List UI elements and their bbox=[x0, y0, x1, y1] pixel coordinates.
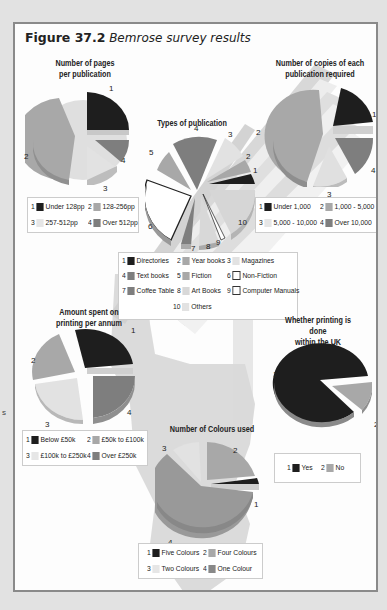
swatch-icon bbox=[183, 287, 190, 295]
copies-legend: 1Under 1,000 21,000 - 5,000 35,000 - 10,… bbox=[255, 197, 378, 233]
swatch-icon bbox=[153, 549, 160, 557]
amount-slice-label-2: 2 bbox=[31, 356, 35, 365]
swatch-icon bbox=[183, 272, 190, 280]
swatch-icon bbox=[265, 219, 272, 227]
swatch-icon bbox=[128, 287, 135, 295]
pages-legend: 1Under 128pp 2128-256pp 3257-512pp 4Over… bbox=[27, 197, 139, 233]
swatch-icon bbox=[326, 219, 333, 227]
swatch-icon bbox=[182, 303, 189, 311]
amount-slice-label-4: 4 bbox=[127, 408, 131, 417]
types-slice-label-8: 8 bbox=[206, 242, 210, 251]
types-slice-label-2: 2 bbox=[246, 152, 250, 161]
swatch-icon bbox=[32, 452, 39, 460]
figure-label: Figure 37.2 bbox=[25, 30, 106, 45]
pages-slice-label-1: 1 bbox=[109, 84, 113, 93]
types-legend: 1Directories 2Year books 3Magazines 4Tex… bbox=[118, 252, 298, 320]
copies-slice-label-1: 1 bbox=[372, 110, 376, 119]
copies-slice-label-4: 4 bbox=[371, 166, 375, 175]
pages-pie-chart bbox=[25, 80, 145, 185]
margin-marker: s bbox=[2, 408, 6, 417]
swatch-icon bbox=[183, 257, 190, 265]
colours-slice-label-2: 2 bbox=[233, 446, 237, 455]
swatch-icon bbox=[94, 219, 101, 227]
colours-slice-label-3: 3 bbox=[162, 444, 166, 453]
types-slice-label-9: 9 bbox=[216, 238, 220, 247]
colours-chart-title: Number of Colours used bbox=[170, 424, 255, 435]
uk-slice-label-1: 1 bbox=[273, 370, 277, 379]
swatch-icon bbox=[93, 436, 100, 444]
swatch-icon bbox=[128, 272, 135, 280]
types-chart-title: Types of publication bbox=[154, 118, 231, 129]
swatch-icon bbox=[233, 257, 240, 265]
swatch-icon bbox=[128, 257, 135, 265]
swatch-icon bbox=[265, 203, 272, 211]
pages-chart-title: Number of pages per publication bbox=[43, 58, 128, 80]
colours-pie-chart bbox=[155, 436, 275, 556]
swatch-icon bbox=[32, 436, 39, 444]
swatch-icon bbox=[327, 464, 334, 472]
swatch-icon bbox=[326, 203, 333, 211]
swatch-icon bbox=[233, 271, 241, 280]
uk-legend: 1Yes 2No bbox=[274, 453, 361, 483]
swatch-icon bbox=[209, 549, 216, 557]
colours-legend: 1Five Colours 2Four Colours 3Two Colours… bbox=[138, 543, 263, 579]
types-slice-label-4: 4 bbox=[194, 124, 198, 133]
uk-pie-chart bbox=[272, 340, 377, 430]
colours-slice-label-1: 1 bbox=[254, 500, 258, 509]
swatch-icon bbox=[233, 286, 241, 295]
amount-pie-chart bbox=[29, 328, 139, 428]
uk-slice-label-2: 2 bbox=[374, 420, 378, 429]
types-slice-label-3: 3 bbox=[228, 130, 232, 139]
pages-slice-label-4: 4 bbox=[121, 156, 125, 165]
copies-chart-title: Number of copies of each publication req… bbox=[269, 58, 371, 80]
types-slice-label-1: 1 bbox=[253, 166, 257, 175]
types-slice-label-6: 6 bbox=[148, 222, 152, 231]
amount-slice-label-1: 1 bbox=[131, 326, 135, 335]
swatch-icon bbox=[37, 203, 44, 211]
types-slice-label-10: 10 bbox=[238, 218, 247, 227]
swatch-icon bbox=[153, 565, 160, 573]
figure-title: Figure 37.2 Bemrose survey results bbox=[25, 30, 251, 45]
pages-slice-label-2: 2 bbox=[24, 152, 28, 161]
amount-slice-label-3: 3 bbox=[45, 420, 49, 429]
amount-chart-title: Amount spent on printing per annum bbox=[55, 307, 123, 329]
figure-panel: Figure 37.2 Bemrose survey results Numbe… bbox=[13, 22, 378, 592]
types-pie-chart bbox=[145, 130, 265, 256]
swatch-icon bbox=[37, 219, 44, 227]
figure-caption: Bemrose survey results bbox=[109, 31, 251, 45]
amount-legend: 1Below £50k 2£50k to £100k 3£100k to £25… bbox=[22, 430, 148, 466]
swatch-icon bbox=[209, 565, 216, 573]
copies-pie-chart bbox=[255, 82, 378, 187]
pages-slice-label-3: 3 bbox=[103, 184, 107, 193]
swatch-icon bbox=[293, 464, 300, 472]
swatch-icon bbox=[94, 203, 101, 211]
swatch-icon bbox=[93, 452, 100, 460]
types-slice-label-5: 5 bbox=[149, 148, 153, 157]
